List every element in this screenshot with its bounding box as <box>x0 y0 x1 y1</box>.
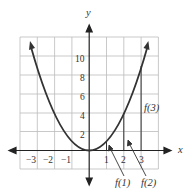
x-tick-label: −2 <box>43 155 53 165</box>
annotation-f2: f(2) <box>141 177 157 189</box>
x-tick-label: −1 <box>61 155 71 165</box>
y-axis-label: y <box>85 7 91 18</box>
y-tick-label: 4 <box>80 111 85 121</box>
x-axis-right-arrow-icon <box>164 148 171 154</box>
parabola-chart: y x −3 −2 −1 1 2 3 2 4 6 8 10 f(3) f(1) … <box>0 0 192 194</box>
y-tick-label: 10 <box>75 54 85 64</box>
y-axis-down-arrow-icon <box>86 178 92 185</box>
y-tick-label: 8 <box>80 73 85 83</box>
y-tick-label: 6 <box>80 92 85 102</box>
x-axis-label: x <box>177 144 183 155</box>
x-tick-label: 2 <box>121 155 126 165</box>
y-axis-up-arrow-icon <box>86 25 92 32</box>
x-tick-label: −3 <box>26 155 36 165</box>
x-axis-left-arrow-icon <box>9 148 16 154</box>
annotation-f1: f(1) <box>115 177 131 189</box>
curve-right-arrow-icon <box>144 41 150 50</box>
x-tick-label: 3 <box>139 155 144 165</box>
annotation-f3: f(3) <box>144 102 160 114</box>
curve-left-arrow-icon <box>29 41 35 50</box>
y-tick-label: 2 <box>80 130 85 140</box>
x-tick-label: 1 <box>104 155 109 165</box>
